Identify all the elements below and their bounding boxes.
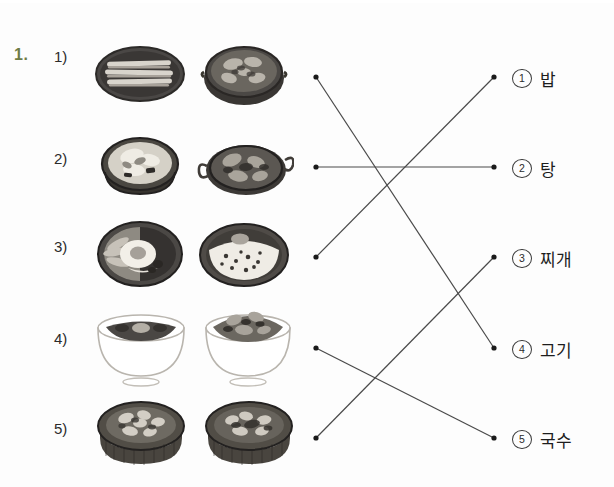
connector-dot-left-1[interactable] [313, 74, 318, 79]
food-image-2-2[interactable] [194, 136, 294, 202]
option-label-4: 고기 [540, 337, 573, 362]
row-label-5: 5) [54, 420, 67, 437]
connection-line-3-to-1[interactable] [316, 77, 494, 257]
connector-dot-right-1[interactable] [491, 74, 496, 79]
row-label-2: 2) [54, 150, 67, 167]
connector-dot-left-2[interactable] [313, 164, 318, 169]
option-row-5[interactable]: 5 국수 [512, 427, 573, 452]
food-image-3-2[interactable] [196, 220, 292, 290]
connection-lines[interactable] [316, 77, 494, 438]
connector-dot-right-3[interactable] [491, 254, 496, 259]
option-label-1: 밥 [540, 66, 557, 91]
option-row-4[interactable]: 4 고기 [512, 337, 573, 362]
option-marker-5: 5 [512, 430, 532, 449]
food-image-4-1[interactable] [92, 306, 190, 390]
connection-line-4-to-5[interactable] [316, 348, 494, 438]
food-image-1-1[interactable] [94, 44, 186, 104]
connector-dot-right-4[interactable] [491, 345, 496, 350]
worksheet-canvas: 1. 1) [0, 0, 614, 487]
option-marker-1: 1 [512, 69, 532, 88]
option-row-2[interactable]: 2 탕 [512, 156, 556, 181]
connection-line-1-to-4[interactable] [316, 77, 494, 348]
food-image-5-1[interactable] [92, 398, 190, 478]
connection-dots[interactable] [313, 74, 496, 440]
connector-dot-right-2[interactable] [491, 164, 496, 169]
row-label-4: 4) [54, 330, 67, 347]
connector-dot-left-5[interactable] [313, 435, 318, 440]
food-image-3-1[interactable] [94, 218, 186, 290]
option-marker-3: 3 [512, 249, 532, 268]
option-marker-4: 4 [512, 340, 532, 359]
option-label-3: 찌개 [540, 246, 573, 271]
option-row-1[interactable]: 1 밥 [512, 66, 556, 91]
connector-dot-right-5[interactable] [491, 435, 496, 440]
food-image-1-2[interactable] [199, 38, 289, 108]
option-label-2: 탕 [540, 156, 557, 181]
food-image-5-2[interactable] [200, 398, 298, 478]
row-label-3: 3) [54, 238, 67, 255]
connection-line-5-to-3[interactable] [316, 257, 494, 438]
option-label-5: 국수 [540, 427, 573, 452]
connector-dot-left-4[interactable] [313, 345, 318, 350]
option-marker-2: 2 [512, 159, 532, 178]
question-number: 1. [14, 46, 28, 64]
top-edge-rule [0, 0, 614, 3]
row-label-1: 1) [54, 48, 67, 65]
food-image-4-2[interactable] [200, 304, 296, 390]
connector-dot-left-3[interactable] [313, 254, 318, 259]
food-image-2-1[interactable] [94, 128, 186, 208]
option-row-3[interactable]: 3 찌개 [512, 246, 573, 271]
